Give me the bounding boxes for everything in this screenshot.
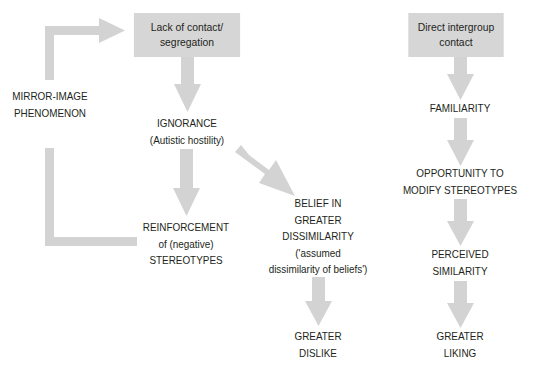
label-line: ('assumed: [269, 245, 368, 262]
arrow-contact-to-ignorance: [174, 57, 201, 112]
label-line: DISSIMILARITY: [269, 228, 368, 245]
label-line: OPPORTUNITY TO: [403, 165, 517, 182]
label-line: MODIFY STEREOTYPES: [403, 182, 517, 199]
ignorance-label: IGNORANCE (Autistic hostility): [150, 115, 224, 148]
reinforcement-label: REINFORCEMENT of (negative) STEREOTYPES: [143, 219, 229, 269]
direct-contact-box: Direct intergroup contact: [408, 13, 503, 57]
box-line: Direct intergroup: [418, 20, 495, 35]
label-line: dissimilarity of beliefs'): [269, 261, 368, 278]
label-line: PHENOMENON: [12, 105, 87, 122]
label-line: PERCEIVED: [431, 246, 488, 263]
arrow-belief-to-dislike: [305, 277, 332, 326]
dislike-label: GREATER DISLIKE: [294, 328, 341, 361]
arrow-ignorance-to-reinforcement: [173, 149, 200, 216]
belief-label: BELIEF IN GREATER DISSIMILARITY ('assume…: [269, 195, 368, 278]
mirror-image-label: MIRROR-IMAGE PHENOMENON: [12, 88, 87, 121]
label-line: SIMILARITY: [431, 263, 488, 280]
box-line: segregation: [151, 35, 223, 50]
label-line: LIKING: [436, 345, 483, 362]
opportunity-label: OPPORTUNITY TO MODIFY STEREOTYPES: [403, 165, 517, 198]
box-line: Lack of contact/: [151, 20, 223, 35]
arrow-ignorance-to-belief: [235, 145, 295, 196]
similarity-label: PERCEIVED SIMILARITY: [431, 246, 488, 279]
label-line: REINFORCEMENT: [143, 219, 229, 236]
label-line: of (negative): [143, 236, 229, 253]
arrow-contact-to-familiarity: [447, 57, 474, 100]
familiarity-label: FAMILIARITY: [430, 100, 491, 117]
loop-vertical-lower: [45, 148, 54, 246]
arrow-familiarity-to-opportunity: [447, 118, 474, 166]
label-line: (Autistic hostility): [150, 132, 224, 149]
label-line: DISLIKE: [294, 345, 341, 362]
label-line: GREATER: [269, 212, 368, 229]
box-line: contact: [418, 35, 495, 50]
loop-arrowhead: [99, 18, 125, 43]
arrow-similarity-to-liking: [447, 281, 474, 328]
label-line: MIRROR-IMAGE: [12, 88, 87, 105]
lack-of-contact-box: Lack of contact/ segregation: [134, 13, 240, 57]
label-line: GREATER: [294, 328, 341, 345]
liking-label: GREATER LIKING: [436, 328, 483, 361]
label-line: FAMILIARITY: [430, 100, 491, 117]
arrow-opportunity-to-similarity: [447, 199, 474, 246]
label-line: GREATER: [436, 328, 483, 345]
loop-top-segment: [45, 26, 101, 35]
loop-bottom-segment: [45, 237, 137, 246]
label-line: BELIEF IN: [269, 195, 368, 212]
label-line: IGNORANCE: [150, 115, 224, 132]
label-line: STEREOTYPES: [143, 252, 229, 269]
